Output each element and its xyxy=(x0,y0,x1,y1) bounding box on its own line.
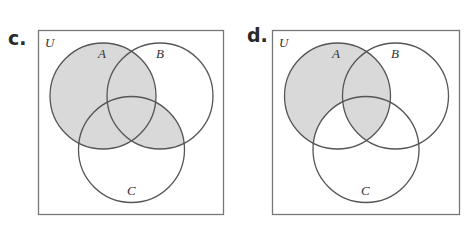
set-label-a: A xyxy=(97,46,106,61)
universe-label: U xyxy=(279,35,290,50)
set-label-b: B xyxy=(156,46,164,61)
set-label-c: C xyxy=(361,183,370,198)
set-label-a: A xyxy=(331,46,340,61)
venn-panel-d: U A B C xyxy=(273,31,460,215)
venn-panel-c: U A B C xyxy=(39,31,224,215)
set-label-c: C xyxy=(127,183,136,198)
venn-diagrams: U A B C U A B C xyxy=(0,0,471,230)
universe-label: U xyxy=(45,35,56,50)
set-label-b: B xyxy=(391,46,399,61)
